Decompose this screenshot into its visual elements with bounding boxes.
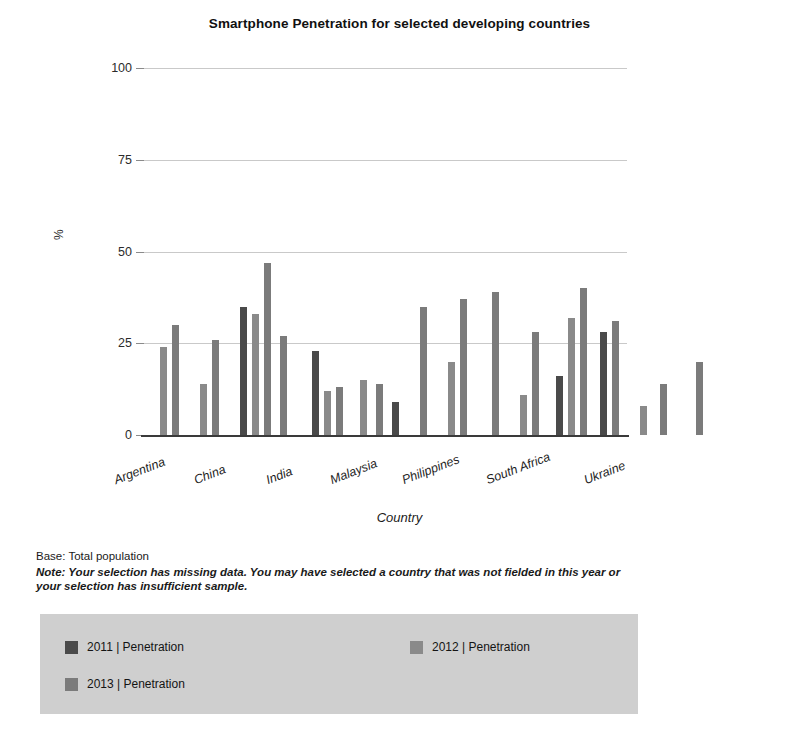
x-axis-line xyxy=(141,435,629,437)
chart-page: Smartphone Penetration for selected deve… xyxy=(0,0,799,752)
missing-data-note: Note: Your selection has missing data. Y… xyxy=(36,565,636,594)
bar xyxy=(600,332,607,435)
legend-label: 2013 | Penetration xyxy=(87,677,185,691)
legend: 2011 | Penetration2012 | Penetration2013… xyxy=(40,614,638,714)
bar xyxy=(360,380,367,435)
legend-item[interactable]: 2012 | Penetration xyxy=(410,640,530,654)
base-note: Base: Total population xyxy=(36,550,636,562)
x-tick-label: Malaysia xyxy=(328,456,379,487)
y-tick-label: 50 xyxy=(92,245,132,259)
bar xyxy=(200,384,207,435)
bar xyxy=(376,384,383,435)
bar xyxy=(336,387,343,435)
y-axis-label: % xyxy=(52,229,66,240)
x-axis-label: Country xyxy=(0,510,799,525)
legend-item[interactable]: 2011 | Penetration xyxy=(65,640,184,654)
bar xyxy=(580,288,587,435)
legend-label: 2012 | Penetration xyxy=(432,640,530,654)
x-tick-label: South Africa xyxy=(484,450,552,487)
y-tick-label: 25 xyxy=(92,336,132,350)
bar xyxy=(172,325,179,435)
bar xyxy=(640,406,647,435)
bar xyxy=(264,263,271,435)
bar xyxy=(240,307,247,435)
bar xyxy=(520,395,527,435)
bar xyxy=(252,314,259,435)
bar xyxy=(448,362,455,435)
footnotes: Base: Total population Note: Your select… xyxy=(36,550,636,594)
bar xyxy=(612,321,619,435)
x-tick-label: Ukraine xyxy=(582,459,627,488)
bar xyxy=(556,376,563,435)
bar xyxy=(280,336,287,435)
bar xyxy=(324,391,331,435)
x-tick-label: Philippines xyxy=(400,452,461,487)
x-tick-label: India xyxy=(264,464,294,487)
bar xyxy=(460,299,467,435)
x-tick-label: Argentina xyxy=(112,455,167,487)
legend-label: 2011 | Penetration xyxy=(87,640,184,654)
legend-item[interactable]: 2013 | Penetration xyxy=(65,677,185,691)
legend-swatch xyxy=(410,641,423,654)
bar xyxy=(392,402,399,435)
bar xyxy=(492,292,499,435)
bar xyxy=(532,332,539,435)
y-tick-label: 100 xyxy=(92,61,132,75)
bar xyxy=(420,307,427,435)
legend-swatch xyxy=(65,678,78,691)
page-title: Smartphone Penetration for selected deve… xyxy=(0,16,799,31)
bar xyxy=(660,384,667,435)
bar-series-container xyxy=(143,68,627,435)
x-tick-label: China xyxy=(192,462,228,487)
y-tick-label: 75 xyxy=(92,153,132,167)
bar xyxy=(696,362,703,435)
bar xyxy=(312,351,319,435)
legend-swatch xyxy=(65,641,78,654)
bar xyxy=(568,318,575,435)
bar xyxy=(212,340,219,435)
y-tick-label: 0 xyxy=(92,428,132,442)
bar xyxy=(160,347,167,435)
